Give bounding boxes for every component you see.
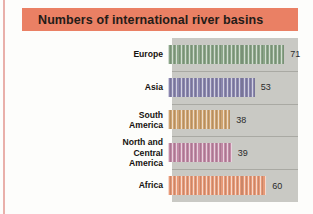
bar-row: Europe71 <box>0 38 313 71</box>
bar-category-label-line: Central <box>0 148 163 158</box>
bar <box>168 143 232 162</box>
chart-title: Numbers of international river basins <box>38 13 263 27</box>
bar-category-label-line: America <box>0 120 163 130</box>
row-separator <box>172 169 298 170</box>
bar-row: Asia53 <box>0 71 313 104</box>
bar-track: 60 <box>168 169 313 202</box>
chart-title-bar: Numbers of international river basins <box>22 8 298 31</box>
bar-track: 39 <box>168 136 313 169</box>
bar-category-label: Asia <box>0 82 168 92</box>
bar-category-label: Africa <box>0 180 168 190</box>
bar-value-label: 53 <box>261 82 271 92</box>
bar-track: 71 <box>168 38 313 71</box>
bar-track: 53 <box>168 71 313 104</box>
bar-row: Africa60 <box>0 169 313 202</box>
bar-track: 38 <box>168 104 313 137</box>
bar-row: North andCentralAmerica39 <box>0 136 313 169</box>
bar-category-label-line: Europe <box>0 49 163 59</box>
bar-value-label: 39 <box>238 148 248 158</box>
chart-figure: Numbers of international river basins Eu… <box>0 0 313 214</box>
bar-value-label: 38 <box>236 115 246 125</box>
bar <box>168 176 266 195</box>
bar-category-label-line: Asia <box>0 82 163 92</box>
bar <box>168 110 230 129</box>
bar-category-label-line: South <box>0 110 163 120</box>
bar-category-label: North andCentralAmerica <box>0 137 168 168</box>
row-separator <box>172 71 298 72</box>
bar <box>168 78 255 97</box>
bar <box>168 45 284 64</box>
bar-category-label: Europe <box>0 49 168 59</box>
bar-category-label-line: North and <box>0 137 163 147</box>
bar-category-label-line: Africa <box>0 180 163 190</box>
bar-row: SouthAmerica38 <box>0 104 313 137</box>
bar-category-label-line: America <box>0 158 163 168</box>
row-separator <box>172 136 298 137</box>
bar-value-label: 71 <box>290 49 300 59</box>
row-separator <box>172 104 298 105</box>
bar-value-label: 60 <box>272 181 282 191</box>
bar-category-label: SouthAmerica <box>0 110 168 130</box>
